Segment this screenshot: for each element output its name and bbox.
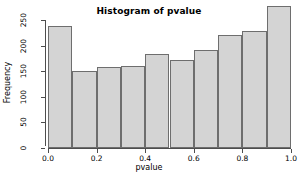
- x-axis-tick-label: 0.4: [132, 154, 158, 163]
- histogram-bar: [194, 50, 218, 148]
- x-axis-tick: [48, 149, 49, 153]
- histogram-bar: [48, 26, 72, 148]
- x-axis-tick: [242, 149, 243, 153]
- y-axis-tick-label: 200: [20, 32, 28, 60]
- histogram-bar: [170, 60, 194, 148]
- x-axis-tick: [194, 149, 195, 153]
- x-axis-tick-label: 0.8: [229, 154, 255, 163]
- histogram-bar: [121, 66, 145, 148]
- y-axis-tick-label: 0: [20, 134, 28, 162]
- histogram-bar: [145, 54, 169, 148]
- histogram-plot: Histogram of pvalue Frequency pvalue 050…: [0, 0, 298, 177]
- histogram-bar: [267, 6, 291, 148]
- y-axis-tick: [41, 97, 45, 98]
- y-axis-tick-label: 100: [20, 83, 28, 111]
- x-axis-tick-label: 0.0: [35, 154, 61, 163]
- x-axis-tick-label: 0.6: [181, 154, 207, 163]
- y-axis-tick-label: 50: [20, 108, 28, 136]
- y-axis-tick: [41, 148, 45, 149]
- x-axis-tick-label: 0.2: [84, 154, 110, 163]
- x-axis-tick: [145, 149, 146, 153]
- x-axis-tick: [291, 149, 292, 153]
- y-axis-tick-label: 150: [20, 57, 28, 85]
- histogram-bar: [72, 71, 96, 148]
- histogram-bar: [242, 31, 266, 148]
- x-axis-tick-label: 1.0: [278, 154, 298, 163]
- y-axis-tick: [41, 20, 45, 21]
- histogram-bar: [97, 67, 121, 148]
- y-axis-tick: [41, 46, 45, 47]
- bars-layer: [0, 0, 298, 177]
- x-axis-tick: [97, 149, 98, 153]
- y-axis-tick: [41, 71, 45, 72]
- y-axis-tick: [41, 122, 45, 123]
- y-axis-tick-label: 250: [20, 6, 28, 34]
- histogram-bar: [218, 35, 242, 148]
